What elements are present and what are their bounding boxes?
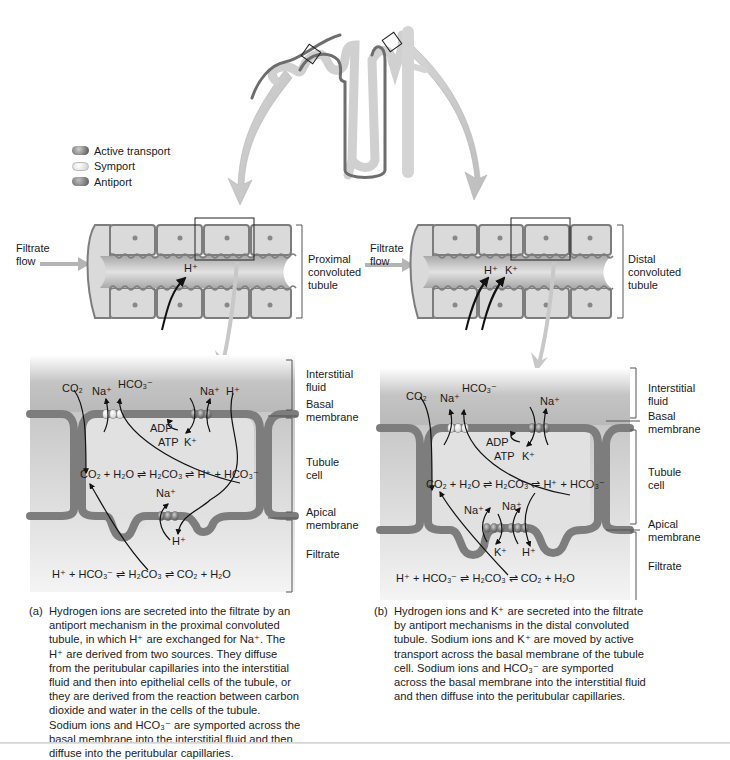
- region-filtrate-b: Filtrate: [648, 560, 682, 572]
- segment-label-a1: Proximal: [308, 253, 351, 265]
- ion-na-apical-b2: Na⁺: [502, 500, 522, 512]
- region-basal-a2: membrane: [306, 411, 359, 423]
- ion-h-filtrate-a: H⁺: [172, 535, 186, 547]
- segment-label-b1: Distal: [628, 253, 656, 265]
- region-cell-a2: cell: [306, 469, 323, 481]
- lumen-ion-h-b: H⁺: [484, 264, 498, 276]
- antiport-pill-icon: [72, 177, 89, 186]
- region-basal-b2: membrane: [648, 423, 701, 435]
- cell-equation-b: CO₂ + H₂O ⇌ H₂CO₃ ⇌ H⁺ + HCO₃⁻: [426, 478, 605, 490]
- caption-a: (a) Hydrogen ions are secreted into the …: [29, 604, 301, 760]
- filtrate-equation-a: H⁺ + HCO₃⁻ ⇌ H₂CO₃ ⇌ CO₂ + H₂O: [52, 568, 231, 580]
- filtrate-equation-b: H⁺ + HCO₃⁻ ⇌ H₂CO₃ ⇌ CO₂ + H₂O: [396, 572, 575, 584]
- segment-label-b2: convoluted: [628, 266, 681, 278]
- ion-na-active-a: Na⁺: [200, 385, 220, 397]
- caption-text-b: Hydrogen ions and K⁺ are secreted into t…: [394, 604, 646, 703]
- caption-tag-b: (b): [374, 604, 388, 618]
- ion-hco3-b: HCO₃⁻: [462, 382, 497, 394]
- region-apical-b1: Apical: [648, 518, 678, 530]
- filtrate-flow-label-b1: Filtrate: [370, 242, 404, 254]
- legend-label: Symport: [94, 160, 135, 172]
- legend-label: Antiport: [94, 176, 132, 188]
- ion-na-symport-a: Na⁺: [92, 385, 112, 397]
- nephron-illustration: [228, 32, 487, 205]
- ion-na-apical-a: Na⁺: [156, 487, 176, 499]
- ion-co2-a: CO₂: [62, 382, 83, 394]
- segment-label-a2: convoluted: [308, 266, 361, 278]
- region-interstitial-a2: fluid: [306, 381, 326, 393]
- region-basal-a1: Basal: [306, 398, 334, 410]
- region-interstitial-b2: fluid: [648, 395, 668, 407]
- proximal-tubule-cross-section: [40, 218, 302, 370]
- legend-item-active-transport: Active transport: [72, 143, 170, 159]
- legend-label: Active transport: [94, 145, 170, 157]
- lumen-ion-h: H⁺: [184, 262, 198, 274]
- ion-k-b: K⁺: [522, 450, 535, 462]
- region-interstitial-b1: Interstitial: [648, 382, 695, 394]
- ion-k-a: K⁺: [184, 436, 197, 448]
- adp-label-a: ADP: [150, 422, 173, 434]
- ion-k-filtrate-b: K⁺: [494, 546, 507, 558]
- region-apical-a1: Apical: [306, 506, 336, 518]
- caption-tag-a: (a): [29, 604, 43, 618]
- adp-label-b: ADP: [486, 436, 509, 448]
- cell-equation-a: CO₂ + H₂O ⇌ H₂CO₃ ⇌ H⁺ + HCO₃⁻: [80, 468, 259, 480]
- region-apical-b2: membrane: [648, 531, 701, 543]
- transport-legend: Active transport Symport Antiport: [72, 143, 170, 190]
- region-basal-b1: Basal: [648, 410, 676, 422]
- legend-item-antiport: Antiport: [72, 174, 170, 190]
- segment-label-b3: tubule: [628, 279, 658, 291]
- segment-label-a3: tubule: [308, 279, 338, 291]
- region-cell-b1: Tubule: [648, 466, 681, 478]
- caption-text-a: Hydrogen ions are secreted into the filt…: [49, 604, 301, 760]
- ion-h-filtrate-b: H⁺: [522, 546, 536, 558]
- ion-hco3-a: HCO₃⁻: [118, 378, 153, 390]
- ion-na-symport-b: Na⁺: [440, 392, 460, 404]
- symport-pill-icon: [72, 162, 89, 171]
- filtrate-flow-label-a2: flow: [16, 255, 36, 267]
- region-filtrate-a: Filtrate: [306, 548, 340, 560]
- kidney-h-secretion-diagram: H⁺ Filtrate flow Proximal convoluted tub…: [0, 0, 730, 600]
- ion-na-apical-b1: Na⁺: [464, 504, 484, 516]
- region-cell-b2: cell: [648, 479, 665, 491]
- region-apical-a2: membrane: [306, 519, 359, 531]
- distal-tubule-cross-section: [365, 218, 623, 372]
- bottom-divider: [0, 742, 730, 744]
- ion-h-interstitial-a: H⁺: [226, 385, 240, 397]
- caption-b: (b) Hydrogen ions and K⁺ are secreted in…: [374, 604, 646, 703]
- legend-item-symport: Symport: [72, 159, 170, 175]
- filtrate-flow-label-a1: Filtrate: [16, 242, 50, 254]
- ion-co2-b: CO₂: [406, 390, 427, 402]
- ion-na-active-b: Na⁺: [540, 395, 560, 407]
- atp-label-a: ATP: [158, 436, 179, 448]
- region-cell-a1: Tubule: [306, 456, 339, 468]
- lumen-ion-k-b: K⁺: [505, 264, 518, 276]
- filtrate-flow-label-b2: flow: [370, 255, 390, 267]
- region-interstitial-a1: Interstitial: [306, 368, 353, 380]
- atp-label-b: ATP: [494, 450, 515, 462]
- active-transport-pill-icon: [72, 146, 89, 155]
